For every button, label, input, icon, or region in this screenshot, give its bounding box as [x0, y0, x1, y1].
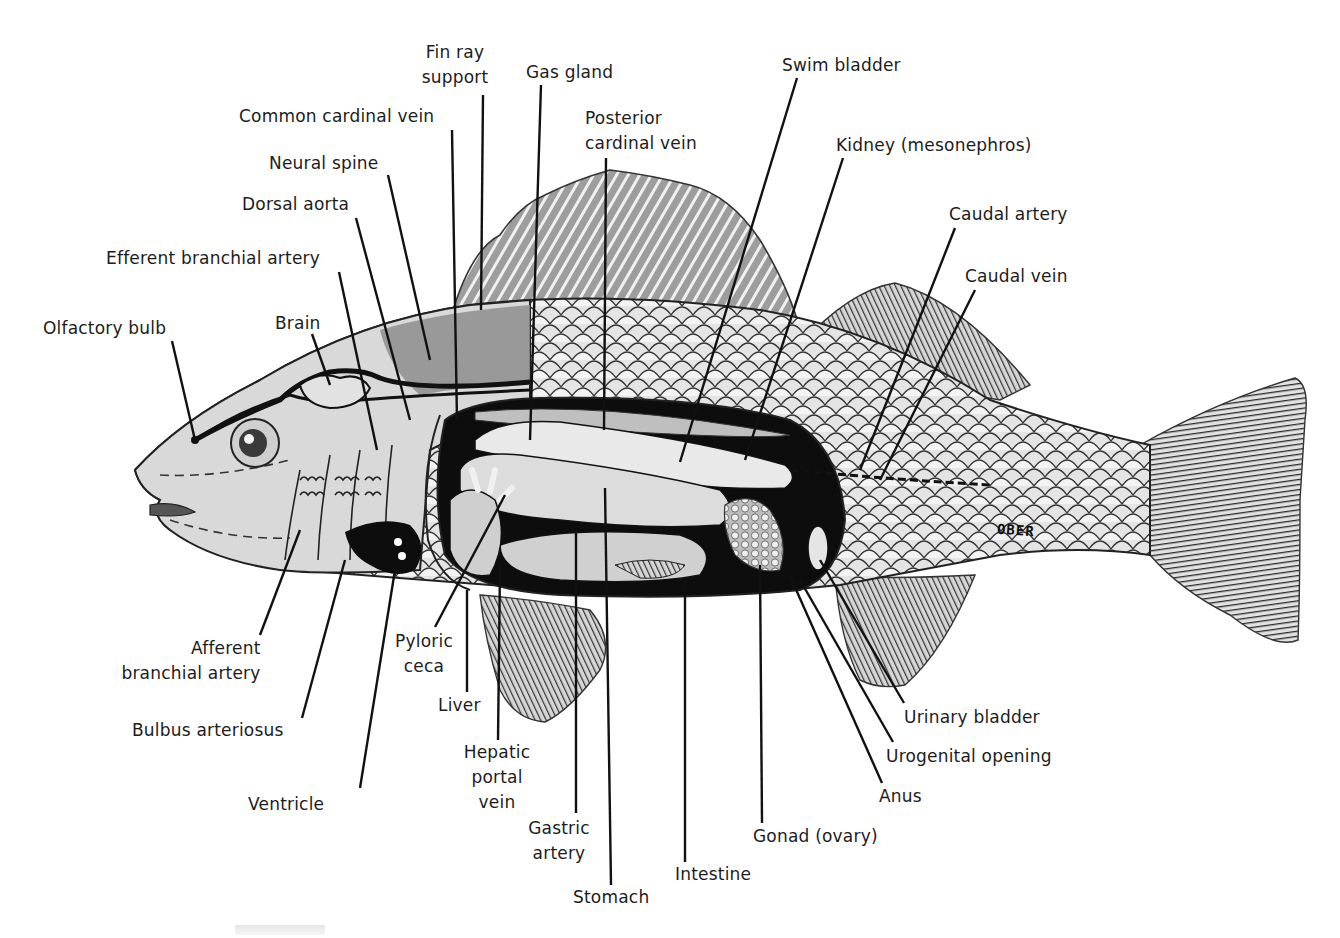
- liver: [450, 490, 501, 576]
- artist-signature: OBER: [996, 521, 1035, 540]
- label-dorsal-aorta: Dorsal aorta: [242, 192, 349, 217]
- label-intestine: Intestine: [675, 862, 751, 887]
- label-brain: Brain: [275, 311, 321, 336]
- label-bulbus-arteriosus: Bulbus arteriosus: [132, 718, 284, 743]
- cropped-figure-caption: [235, 925, 325, 935]
- label-olfactory-bulb: Olfactory bulb: [43, 316, 166, 341]
- label-anus: Anus: [879, 784, 922, 809]
- label-afferent-branchial-artery: Afferentbranchial artery: [116, 636, 261, 686]
- label-caudal-artery: Caudal artery: [949, 202, 1068, 227]
- label-gastric-artery: Gastricartery: [528, 816, 590, 866]
- label-hepatic-portal-vein: Hepaticportalvein: [464, 740, 531, 815]
- urinary-bladder: [808, 526, 828, 570]
- label-ventricle: Ventricle: [248, 792, 324, 817]
- label-liver: Liver: [438, 693, 481, 718]
- label-pyloric-ceca: Pyloricceca: [395, 629, 453, 679]
- label-efferent-branchial-artery: Efferent branchial artery: [106, 246, 320, 271]
- label-caudal-vein: Caudal vein: [965, 264, 1068, 289]
- label-kidney: Kidney (mesonephros): [836, 133, 1032, 158]
- label-gas-gland: Gas gland: [526, 60, 613, 85]
- intestine: [500, 532, 707, 582]
- label-gonad: Gonad (ovary): [753, 824, 878, 849]
- label-posterior-cardinal-vein: Posteriorcardinal vein: [585, 106, 697, 156]
- label-common-cardinal-vein: Common cardinal vein: [239, 104, 434, 129]
- label-fin-ray-support: Fin raysupport: [422, 40, 489, 90]
- fish-anatomy-diagram: OBER Fin raysupport Gas gland Swim bladd…: [0, 0, 1340, 938]
- caudal-fin: [1140, 378, 1306, 642]
- label-urinary-bladder: Urinary bladder: [904, 705, 1040, 730]
- label-urogenital-opening: Urogenital opening: [886, 744, 1052, 769]
- label-swim-bladder: Swim bladder: [782, 53, 901, 78]
- label-stomach: Stomach: [573, 885, 649, 910]
- anal-fin: [835, 575, 975, 687]
- label-neural-spine: Neural spine: [269, 151, 379, 176]
